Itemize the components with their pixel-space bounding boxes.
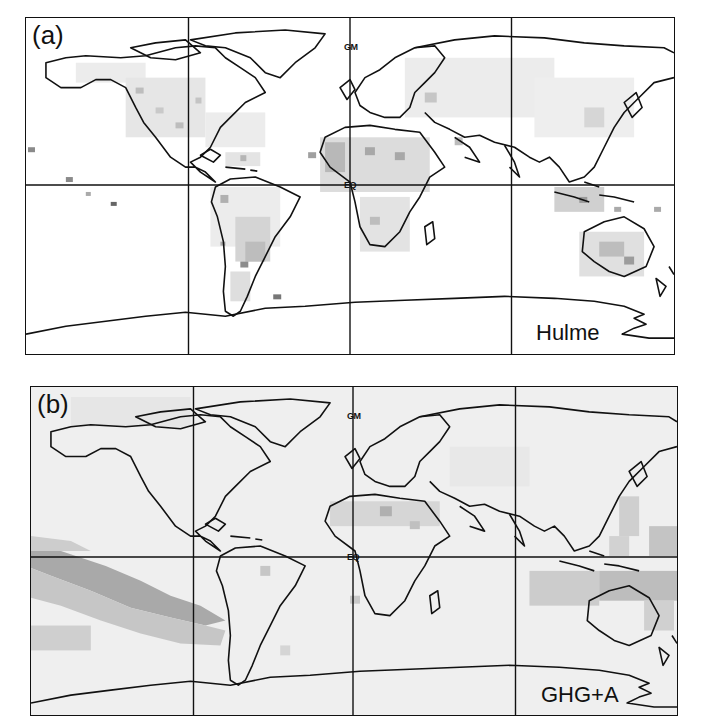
- source-label-hulme: Hulme: [536, 320, 600, 346]
- gm-label-a: GM: [344, 42, 358, 52]
- source-label-ghg-a: GHG+A: [541, 682, 619, 708]
- map-panel-a: (a) GM EQ Hulme: [25, 17, 675, 355]
- eq-label-b: EQ: [347, 552, 359, 562]
- map-panel-b: (b) GM EQ GHG+A: [30, 386, 678, 716]
- gm-label-b: GM: [347, 411, 361, 421]
- eq-label-a: EQ: [344, 180, 356, 190]
- panel-label-a: (a): [32, 20, 64, 51]
- world-map-b: [31, 387, 677, 715]
- panel-label-b: (b): [37, 389, 69, 420]
